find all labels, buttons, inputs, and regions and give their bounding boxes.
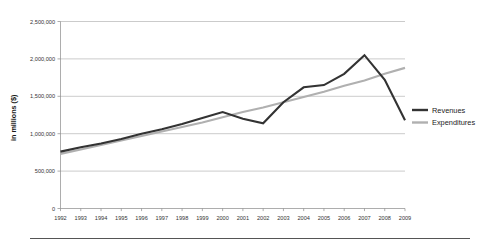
legend-label: Expenditures (432, 118, 475, 127)
x-tick-label: 1997 (156, 215, 168, 221)
x-tick-label: 2001 (237, 215, 249, 221)
y-tick-label: 1,500,000 (30, 93, 55, 99)
x-tick-label: 1993 (75, 215, 87, 221)
x-tick-label: 2005 (318, 215, 330, 221)
x-tick-label: 1995 (115, 215, 127, 221)
x-tick-label: 2008 (379, 215, 391, 221)
y-tick-label: 2,500,000 (30, 19, 55, 25)
y-tick-label: 500,000 (35, 168, 55, 174)
x-tick-label: 2007 (358, 215, 370, 221)
x-tick-label: 2000 (216, 215, 228, 221)
x-tick-label: 1996 (135, 215, 147, 221)
x-tick-label: 1998 (176, 215, 188, 221)
x-tick-label: 2003 (277, 215, 289, 221)
x-tick-label: 2009 (399, 215, 411, 221)
y-tick-label: 2,000,000 (30, 56, 55, 62)
chart-figure: 2,500,0002,000,0001,500,0001,000,000500,… (0, 0, 499, 244)
y-tick-label: 0 (52, 206, 55, 212)
x-tick-label: 2002 (257, 215, 269, 221)
x-tick-label: 1992 (54, 215, 66, 221)
line-chart: 2,500,0002,000,0001,500,0001,000,000500,… (0, 0, 499, 244)
y-tick-label: 1,000,000 (30, 131, 55, 137)
y-axis-title: in millions ($) (9, 94, 18, 141)
x-tick-label: 1994 (95, 215, 107, 221)
x-tick-label: 2004 (297, 215, 309, 221)
legend-label: Revenues (432, 106, 466, 115)
x-tick-label: 1999 (196, 215, 208, 221)
x-tick-label: 2006 (338, 215, 350, 221)
